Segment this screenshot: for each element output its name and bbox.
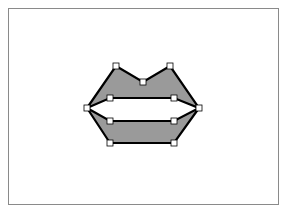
handle-lower-inner-right[interactable]	[171, 118, 177, 124]
upper-lip-shape[interactable]	[87, 66, 199, 108]
handle-upper-inner-right[interactable]	[171, 95, 177, 101]
handle-left-corner[interactable]	[84, 105, 90, 111]
drawing-canvas	[0, 0, 291, 212]
handle-bottom-right[interactable]	[171, 140, 177, 146]
handle-upper-right-peak[interactable]	[167, 63, 173, 69]
handle-lower-inner-left[interactable]	[107, 118, 113, 124]
handle-right-corner[interactable]	[196, 105, 202, 111]
handle-center-dip[interactable]	[140, 79, 146, 85]
handle-bottom-left[interactable]	[107, 140, 113, 146]
lower-lip-shape[interactable]	[87, 108, 199, 143]
handle-upper-inner-left[interactable]	[107, 95, 113, 101]
handle-upper-left-peak[interactable]	[113, 63, 119, 69]
